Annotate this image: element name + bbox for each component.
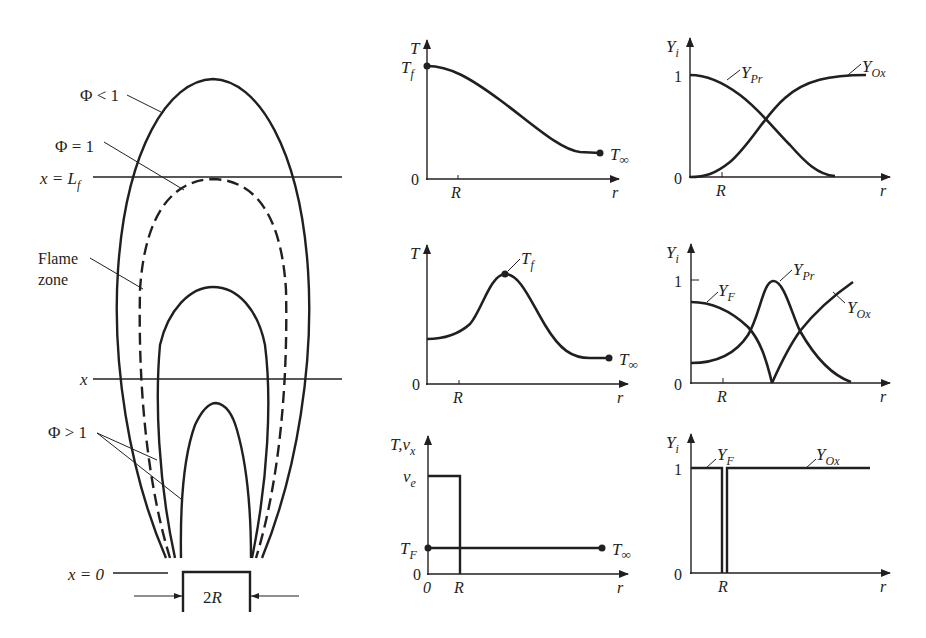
leader-phi-lt-1	[127, 95, 161, 112]
leader-tf	[508, 259, 520, 271]
label-x-eq-lf: x = Lf	[39, 169, 82, 192]
curve-yox	[690, 75, 866, 177]
y-label: Yi	[666, 37, 679, 60]
curve-yf	[691, 302, 772, 383]
y-label: Yi	[666, 433, 679, 456]
leader-ypr	[727, 70, 740, 80]
chart-species-at-lf: Yi 1 0 R r YPr YOx	[666, 37, 890, 199]
label-2r: 2R	[203, 588, 223, 607]
label-phi-gt-1: Φ > 1	[48, 423, 87, 442]
curve-yox	[727, 468, 870, 573]
curve-temperature	[427, 66, 600, 153]
flame-outline-rich-1	[158, 287, 268, 558]
curve-yf	[691, 468, 722, 573]
label-tinf: T∞	[610, 145, 629, 167]
label-yf: YF	[717, 445, 734, 468]
tick-label-0: 0	[674, 566, 682, 583]
label-yf: YF	[718, 281, 735, 304]
label-zone: zone	[38, 271, 68, 288]
point-tf	[502, 271, 509, 278]
tick-label-r: R	[452, 389, 463, 406]
curve-velocity	[428, 476, 460, 574]
y-label: T,vx	[390, 435, 416, 458]
label-ypr: YPr	[793, 260, 815, 283]
origin-x-label: 0	[423, 579, 431, 596]
x-label: r	[617, 579, 624, 596]
flame-outline-lean	[117, 79, 309, 558]
tick-label-1: 1	[674, 273, 682, 290]
tick-label-r: R	[716, 388, 727, 405]
label-yox: YOx	[862, 57, 886, 80]
point-tinf	[597, 150, 604, 157]
label-phi-lt-1: Φ < 1	[80, 86, 119, 105]
flame-sketch: Φ < 1 Φ = 1 x = Lf Flame zone x Φ > 1 x …	[38, 79, 342, 612]
tick-label-0: 0	[674, 170, 682, 187]
curve-ypr	[691, 281, 851, 382]
y-label: T	[410, 39, 421, 58]
leader-yf	[707, 292, 718, 302]
point-tinf	[606, 355, 613, 362]
label-x-eq-0: x = 0	[67, 565, 105, 584]
label-tinf: T∞	[612, 540, 631, 562]
flame-outline-rich-2	[181, 403, 251, 558]
tick-label-r: R	[717, 578, 728, 595]
label-yox: YOx	[816, 445, 840, 468]
label-tinf: T∞	[619, 350, 638, 372]
leader-ypr	[780, 270, 792, 281]
origin-label: 0	[412, 376, 420, 393]
chart-exit-species: Yi 1 0 R r YF YOx	[666, 433, 890, 595]
tick-label-r: R	[715, 182, 726, 199]
leader-yf	[706, 459, 716, 468]
label-tF: TF	[400, 539, 417, 562]
label-ypr: YPr	[741, 63, 763, 86]
label-phi-eq-1: Φ = 1	[55, 137, 94, 156]
chart-temp-at-x: T Tf 0 R r T∞	[410, 244, 638, 406]
point-tF	[425, 545, 432, 552]
chart-exit-temp-velocity: T,vx ve TF 0 0 R r T∞	[390, 435, 631, 596]
curve-yox	[772, 282, 853, 383]
label-tf: Tf	[401, 58, 415, 81]
leader-yox	[806, 459, 816, 468]
leader-phi-gt-1-b	[97, 433, 181, 499]
x-label: r	[617, 389, 624, 406]
x-label: r	[880, 388, 887, 405]
tick-label-1: 1	[674, 461, 682, 478]
label-tf: Tf	[521, 249, 535, 272]
point-tinf	[599, 545, 606, 552]
chart-temp-at-lf: T Tf 0 R r T∞	[401, 39, 629, 201]
x-label: r	[612, 184, 619, 201]
figure-canvas: Φ < 1 Φ = 1 x = Lf Flame zone x Φ > 1 x …	[0, 0, 926, 638]
label-x-station: x	[79, 370, 88, 389]
origin-y-label: 0	[413, 566, 421, 583]
label-yox: YOx	[847, 298, 871, 321]
tick-label-r: R	[453, 579, 464, 596]
origin-label: 0	[411, 171, 419, 188]
y-label: Yi	[666, 243, 679, 266]
x-label: r	[880, 182, 887, 199]
flame-outline-stoichiometric	[140, 179, 287, 558]
tick-label-0: 0	[674, 376, 682, 393]
chart-species-at-x: Yi 1 0 R r YF YPr YOx	[666, 243, 890, 405]
leader-yox	[848, 64, 861, 75]
label-ve: ve	[403, 467, 417, 490]
tick-label-1: 1	[674, 68, 682, 85]
curve-temperature	[427, 274, 609, 358]
label-flame: Flame	[38, 250, 78, 267]
y-label: T	[410, 244, 421, 263]
tick-label-r: R	[450, 184, 461, 201]
point-tf	[424, 63, 431, 70]
x-label: r	[880, 578, 887, 595]
leader-phi-eq-1	[104, 142, 184, 190]
